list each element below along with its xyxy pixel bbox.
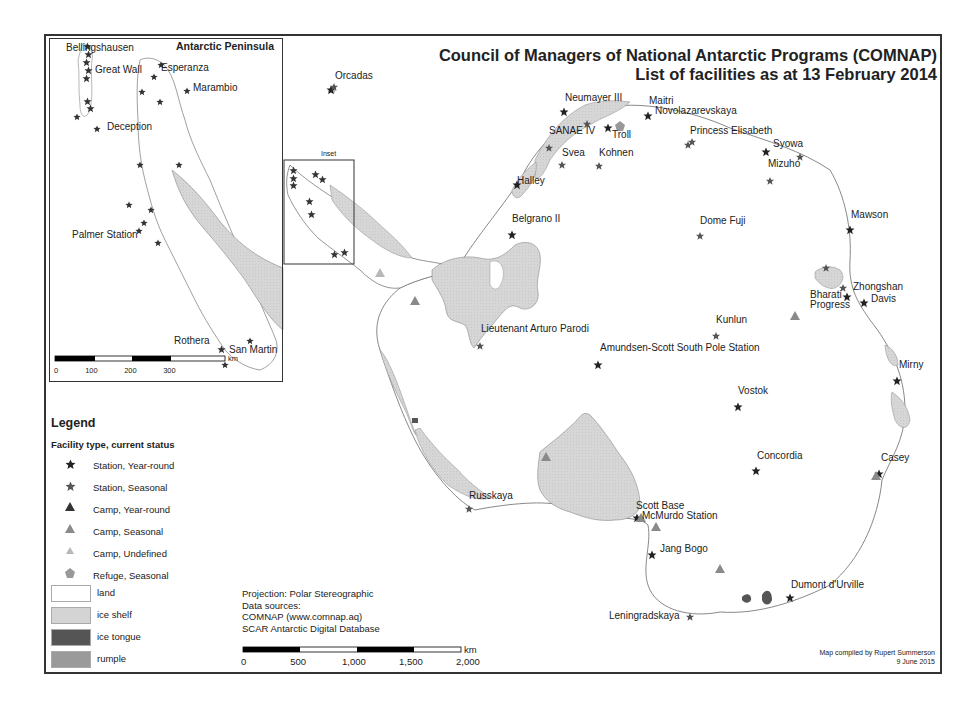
- inset-title: Antarctic Peninsula: [176, 40, 274, 52]
- station-label: Leningradskaya: [609, 610, 680, 621]
- station-label: Halley: [517, 175, 545, 186]
- projection-text: Projection: Polar Stereographic: [242, 588, 380, 600]
- antarctica-land: [377, 105, 905, 614]
- legend-title: Legend: [51, 416, 95, 430]
- station-label: Concordia: [757, 450, 803, 461]
- station-label: SANAE IV: [549, 125, 595, 136]
- credit-date: 9 June 2015: [819, 657, 935, 666]
- scale-tick-label: 1,500: [399, 656, 423, 667]
- map-subtitle: List of facilities as at 13 February 201…: [635, 65, 937, 84]
- inset-locator-label: Inset: [321, 150, 336, 157]
- station-label: Mizuho: [768, 158, 800, 169]
- legend-item-refuge-seasonal: Refuge, Seasonal: [51, 566, 169, 584]
- scale-unit-label: km: [228, 354, 238, 363]
- inset-map: [49, 38, 283, 382]
- swatch-ice-tongue: [51, 629, 91, 646]
- scale-tick-label: 300: [163, 366, 176, 375]
- station-label: Neumayer III: [565, 92, 622, 103]
- station-label: Kohnen: [599, 147, 633, 158]
- station-label: McMurdo Station: [642, 510, 718, 521]
- station-label: Belgrano II: [512, 213, 560, 224]
- swatch-ice-shelf-label: ice shelf: [97, 609, 132, 620]
- scale-tick-label: 1,000: [342, 656, 366, 667]
- inset-station-label: Rothera: [174, 335, 210, 346]
- station-label: Dome Fuji: [700, 215, 746, 226]
- swatch-ice-tongue-label: ice tongue: [97, 631, 141, 642]
- legend-subtitle: Facility type, current status: [51, 439, 175, 450]
- source-scar: SCAR Antarctic Digital Database: [242, 623, 380, 635]
- scale-tick-label: 100: [85, 366, 98, 375]
- swatch-rumple-label: rumple: [97, 653, 126, 664]
- swatch-ice-shelf: [51, 607, 91, 624]
- station-label: Syowa: [773, 138, 803, 149]
- inset-station-label: Marambio: [193, 82, 237, 93]
- map-credit: Map compiled by Rupert Summerson 9 June …: [819, 648, 935, 666]
- source-comnap: COMNAP (www.comnap.aq): [242, 611, 380, 623]
- legend-item-station-year-round: Station, Year-round: [51, 456, 174, 474]
- legend-item-camp-seasonal: Camp, Seasonal: [51, 522, 163, 540]
- legend-item-camp-year-round: Camp, Year-round: [51, 500, 170, 518]
- station-label: Vostok: [738, 385, 768, 396]
- station-year-round-icon: [560, 108, 569, 117]
- swatch-rumple: [51, 651, 91, 668]
- map-title: Council of Managers of National Antarcti…: [439, 46, 937, 65]
- swatch-land: [51, 585, 91, 602]
- station-label: Zhongshan: [853, 281, 903, 292]
- station-label: Davis: [871, 293, 896, 304]
- station-label: Troll: [612, 129, 631, 140]
- station-label: Jang Bogo: [660, 543, 708, 554]
- station-label: Kunlun: [716, 314, 747, 325]
- station-label: Lieutenant Arturo Parodi: [481, 323, 589, 334]
- legend-item-camp-undefined: Camp, Undefined: [51, 544, 167, 562]
- inset-station-label: Great Wall: [95, 64, 142, 75]
- scale-tick-label: 500: [290, 656, 306, 667]
- station-label: Mawson: [851, 209, 888, 220]
- scale-tick-label: 0: [54, 366, 58, 375]
- scale-tick-label: 200: [124, 366, 137, 375]
- station-label: Novolazarevskaya: [655, 105, 737, 116]
- station-label: Princess Elisabeth: [690, 125, 772, 136]
- station-label: Progress: [810, 299, 850, 310]
- inset-station-label: Esperanza: [161, 62, 209, 73]
- station-label: Russkaya: [469, 490, 513, 501]
- station-label: Mirny: [899, 359, 923, 370]
- inset-station-label: Bellingshausen: [66, 42, 134, 53]
- swatch-land-label: land: [97, 587, 115, 598]
- credit-author: Map compiled by Rupert Summerson: [819, 648, 935, 657]
- station-label: Amundsen-Scott South Pole Station: [600, 342, 760, 353]
- map-info: Projection: Polar Stereographic Data sou…: [242, 588, 380, 634]
- ice-tongue-west: [412, 418, 418, 423]
- inset-station-label: Deception: [107, 121, 152, 132]
- station-label: Casey: [881, 452, 909, 463]
- sources-heading: Data sources:: [242, 600, 380, 612]
- main-scalebar: [243, 647, 461, 652]
- scale-tick-label: 2,000: [456, 656, 480, 667]
- station-label: Orcadas: [335, 70, 373, 81]
- inset-station-label: Palmer Station: [72, 229, 138, 240]
- scale-tick-label: 0: [241, 656, 246, 667]
- station-label: Svea: [562, 147, 585, 158]
- station-label: Dumont d'Urville: [791, 579, 864, 590]
- legend-item-station-seasonal: Station, Seasonal: [51, 478, 167, 496]
- scale-unit-label: km: [464, 644, 477, 655]
